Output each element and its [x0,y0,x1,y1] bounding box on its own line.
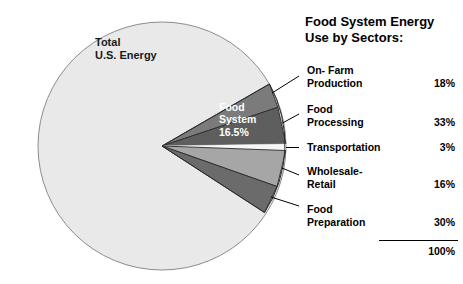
leader-line-wholesale-retail [282,168,299,175]
pie-label-food-system: Food System 16.5% [219,101,256,138]
pie-label-total-us-energy: Total U.S. Energy [95,36,157,62]
legend-percent-transportation: 3% [440,141,455,153]
legend-title: Food System Energy Use by Sectors: [305,14,463,46]
leader-line-food-processing [283,114,300,123]
legend-row-wholesale-retail: Wholesale- Retail 16% [303,165,463,195]
chart-figure: Total U.S. Energy Food System 16.5% Food… [0,0,463,284]
pie-chart-area: Total U.S. Energy Food System 16.5% [0,0,300,284]
legend-row-on-farm-production: On- Farm Production 18% [303,64,463,94]
legend-panel: Food System Energy Use by Sectors: On- F… [303,0,463,284]
leader-line-food-preparation [271,197,299,206]
legend-label-food-processing: Food Processing [307,103,364,129]
legend-label-on-farm-production: On- Farm Production [307,64,362,90]
legend-percent-wholesale-retail: 16% [434,178,455,190]
legend-row-food-processing: Food Processing 33% [303,103,463,133]
legend-label-wholesale-retail: Wholesale- Retail [307,165,362,191]
legend-percent-on-farm-production: 18% [434,77,455,89]
legend-row-food-preparation: Food Preparation 30% [303,203,463,233]
legend-label-food-preparation: Food Preparation [307,203,365,229]
leader-line-on-farm-production [272,76,299,93]
legend-total-percent: 100% [428,245,455,257]
legend-percent-food-processing: 33% [434,116,455,128]
legend-percent-food-preparation: 30% [434,216,455,228]
legend-total-divider [379,240,458,241]
legend-label-transportation: Transportation [307,141,381,154]
